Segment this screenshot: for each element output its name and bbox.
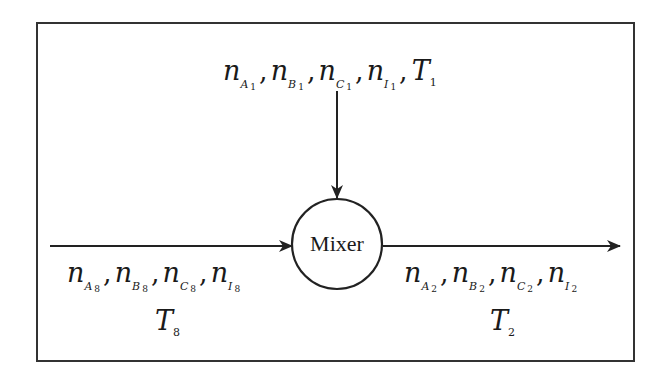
mixer-flow-diagram: nA1,nB1,nC1,nI1,T1 Mixer nA8,nB8,nC8,nI8… bbox=[0, 0, 667, 379]
svg-text:nA2,nB2,nC2,nI2: nA2,nB2,nC2,nI2 bbox=[404, 257, 577, 294]
mixer-unit: Mixer bbox=[292, 199, 382, 289]
mixer-label: Mixer bbox=[310, 231, 364, 256]
stream-1-label: nA1,nB1,nC1,nI1,T1 bbox=[223, 55, 437, 92]
stream-2-label: nA2,nB2,nC2,nI2 T2 bbox=[404, 257, 577, 339]
stream-8-temperature: T8 bbox=[155, 305, 180, 339]
stream-2-temperature: T2 bbox=[490, 305, 515, 339]
stream-8-label: nA8,nB8,nC8,nI8 T8 bbox=[67, 257, 240, 339]
svg-text:nA8,nB8,nC8,nI8: nA8,nB8,nC8,nI8 bbox=[67, 257, 240, 294]
svg-text:nA1,nB1,nC1,nI1,T1: nA1,nB1,nC1,nI1,T1 bbox=[223, 55, 437, 92]
